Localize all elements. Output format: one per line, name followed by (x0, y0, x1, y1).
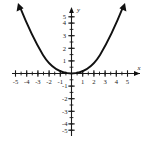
y-axis-label: y (76, 6, 81, 13)
x-tick-label--2: -2 (46, 78, 52, 85)
y-axis-arrow-icon (69, 7, 74, 13)
graph-figure: -5 -4 -3 -2 -1 1 2 3 4 5 5 4 3 2 1 -1 -2… (0, 0, 154, 141)
x-tick-label--4: -4 (24, 78, 30, 85)
y-tick-label-3: 3 (63, 32, 67, 39)
x-tick-label-4: 4 (115, 78, 119, 85)
parabola-left-arrow-icon (17, 3, 24, 12)
y-tick-label--5: -5 (62, 127, 68, 134)
x-tick-label--5: -5 (13, 78, 19, 85)
y-tick-label-4: 4 (63, 19, 67, 26)
x-tick-label--3: -3 (35, 78, 41, 85)
x-axis-arrow-icon (134, 71, 140, 76)
y-tick-label--2: -2 (62, 95, 68, 102)
y-tick-label-2: 2 (63, 45, 66, 52)
y-tick-label--1: -1 (62, 82, 68, 89)
y-tick-label--3: -3 (62, 108, 68, 115)
axes-group (12, 7, 140, 136)
x-tick-label-1: 1 (81, 78, 84, 85)
coordinate-plane: -5 -4 -3 -2 -1 1 2 3 4 5 5 4 3 2 1 -1 -2… (0, 0, 154, 141)
x-tick-label-5: 5 (126, 78, 130, 85)
y-tick-label-1: 1 (63, 57, 66, 64)
x-axis-label: x (136, 64, 140, 71)
parabola-right-arrow-icon (119, 3, 126, 12)
x-tick-label-2: 2 (92, 78, 95, 85)
x-tick-label-3: 3 (103, 78, 107, 85)
